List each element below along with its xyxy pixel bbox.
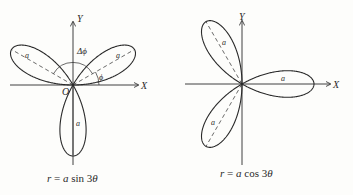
rose-cos-diagram: Y X a a a	[185, 11, 340, 165]
figure: Y X O Δϕ ϕ a a a Y X a a a	[0, 0, 353, 195]
eq-equals: =	[224, 167, 236, 179]
petal-label: a	[25, 51, 29, 60]
x-axis-label: X	[332, 79, 340, 90]
petal-axis-dashed	[12, 50, 74, 86]
y-axis-label: Y	[77, 13, 84, 24]
equation-caption-sin: r = a sin 3θ	[47, 172, 98, 184]
petal-axis-dashed	[206, 84, 242, 146]
petal-label: a	[76, 119, 80, 128]
equation-caption-cos: r = a cos 3θ	[220, 167, 273, 179]
eq-fn: cos 3	[242, 167, 268, 179]
y-axis-label: Y	[239, 11, 246, 22]
rose-sin-diagram: Y X O Δϕ ϕ a a a	[10, 13, 148, 165]
petal-axis-dashed	[206, 22, 242, 84]
phi-label: ϕ	[99, 73, 103, 82]
petal-label: a	[116, 51, 120, 60]
petal-label: a	[222, 38, 226, 47]
eq-fn: sin 3	[69, 172, 93, 184]
petal-label: a	[211, 118, 215, 127]
delta-phi-label: Δϕ	[76, 46, 87, 56]
eq-theta: θ	[267, 167, 272, 179]
petal-label: a	[281, 74, 285, 83]
eq-equals: =	[51, 172, 63, 184]
eq-theta: θ	[92, 172, 97, 184]
x-axis-label: X	[140, 80, 148, 91]
origin-label: O	[62, 86, 69, 97]
